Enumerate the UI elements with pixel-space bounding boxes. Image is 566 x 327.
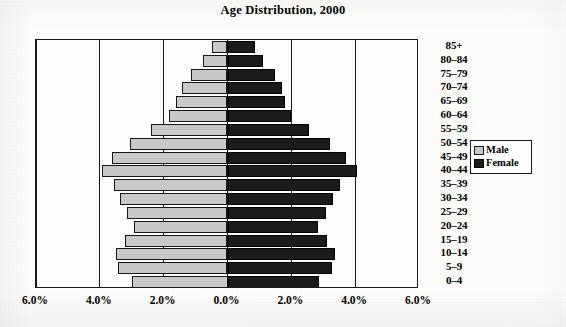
x-tick-label: 2.0% [150,294,176,306]
gridline-zero-axis [227,40,229,287]
bar-female [228,82,283,94]
legend-item: Female [474,157,527,170]
bar-female [228,193,334,205]
bar-male [182,82,227,94]
age-group-label: 55–59 [426,122,482,134]
bar-male [112,152,228,164]
age-group-label: 5–9 [426,260,482,272]
bar-male [102,165,228,177]
bar-female [228,110,292,122]
bar-female [228,179,340,191]
bar-female [228,41,255,53]
bar-male [176,96,227,108]
legend-item: Male [474,144,527,157]
x-tick-label: 4.0% [341,294,367,306]
bar-male [130,138,227,150]
bar-male [151,124,228,136]
bar-female [228,96,285,108]
x-tick-label: 4.0% [86,294,112,306]
bar-female [228,138,330,150]
bar-male [134,221,227,233]
bar-female [228,165,357,177]
plot-area [35,39,418,288]
bar-male [120,193,228,205]
bar-female [228,276,320,287]
bar-male [127,207,228,219]
bar-male [203,55,228,67]
age-group-label: 0–4 [426,274,482,286]
legend-swatch-male [474,146,484,155]
x-tick-label: 2.0% [277,294,303,306]
chart-page: Age Distribution, 2000 6.0%4.0%2.0%0.0%2… [0,0,566,327]
bar-male [116,248,228,260]
bar-male [191,69,228,81]
bar-female [228,221,319,233]
legend-swatch-female [474,159,484,168]
age-group-label: 25–29 [426,205,482,217]
legend-label: Male [486,145,509,156]
bar-male [212,41,228,53]
bar-female [228,124,309,136]
bar-female [228,69,275,81]
age-group-label: 75–79 [426,67,482,79]
age-group-label: 20–24 [426,219,482,231]
bar-male [114,179,228,191]
chart-legend: MaleFemale [470,140,532,174]
x-tick-label: 0.0% [214,294,240,306]
age-group-label: 35–39 [426,177,482,189]
age-group-label: 10–14 [426,246,482,258]
plot-inner [36,40,417,287]
bar-male [169,110,227,122]
age-group-label: 15–19 [426,233,482,245]
age-group-label: 85+ [426,39,482,51]
age-group-label: 65–69 [426,94,482,106]
age-group-label: 30–34 [426,191,482,203]
age-group-label: 70–74 [426,80,482,92]
age-group-label: 60–64 [426,108,482,120]
age-group-label: 80–84 [426,53,482,65]
x-tick-label: 6.0% [22,294,48,306]
legend-label: Female [486,158,519,169]
bar-female [228,55,263,67]
bar-male [125,235,228,247]
bar-male [118,262,227,274]
bar-female [228,235,328,247]
x-tick-label: 6.0% [405,294,431,306]
bar-female [228,207,326,219]
bar-female [228,152,347,164]
bar-female [228,262,333,274]
page-title: Age Distribution, 2000 [0,3,566,18]
bar-male [132,276,228,287]
bar-female [228,248,335,260]
